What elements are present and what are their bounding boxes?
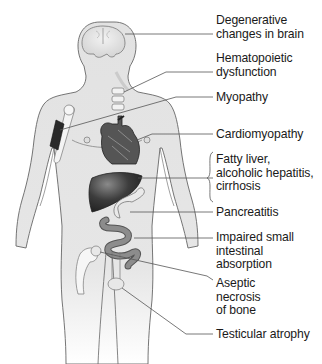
leader-bone-b [207,276,213,280]
label-testes: Testicular atrophy [216,328,310,342]
label-intestine: Impaired small intestinal absorption [216,231,294,272]
vertebrae-organ [112,88,124,110]
nipple-right [144,137,150,143]
liver-bracket [207,152,213,202]
label-hematopoietic: Hematopoietic dysfunction [216,52,293,79]
label-cardiomyopathy: Cardiomyopathy [216,128,303,142]
label-myopathy: Myopathy [216,91,268,105]
label-brain: Degenerative changes in brain [216,14,304,41]
label-pancreatitis: Pancreatitis [216,206,278,220]
leader-hematopoietic-a [124,72,166,92]
label-bone: Aseptic necrosis of bone [216,277,261,318]
label-liver: Fatty liver, alcoholic hepatitis, cirrho… [216,153,314,194]
nipple-left [84,137,90,143]
brain-organ [82,26,125,57]
